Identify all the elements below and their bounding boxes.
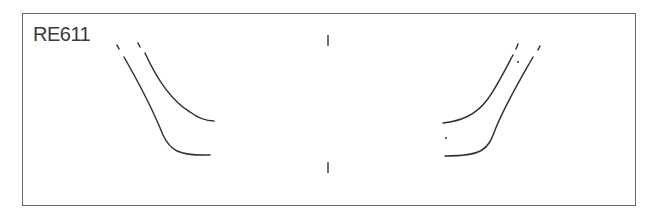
right-curve-outer xyxy=(445,57,533,156)
reference-dot xyxy=(517,61,519,63)
left-curve-inner-tick xyxy=(138,43,140,47)
left-curve-outer xyxy=(124,57,210,155)
right-profile-curves xyxy=(443,44,540,156)
right-curve-inner-tick xyxy=(516,44,518,49)
left-profile-curves xyxy=(117,43,214,155)
reference-dots xyxy=(445,61,519,139)
left-curve-inner xyxy=(145,53,214,121)
reference-dot xyxy=(445,137,447,139)
profile-drawing xyxy=(0,0,652,220)
left-curve-outer-tick xyxy=(117,45,119,49)
right-curve-outer-tick xyxy=(538,46,540,50)
